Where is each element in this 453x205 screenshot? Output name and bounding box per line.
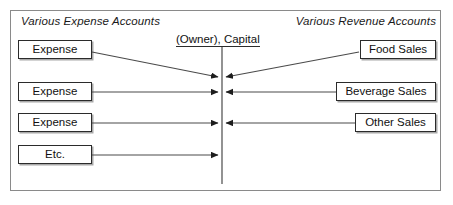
owner-capital-label: (Owner), Capital bbox=[176, 33, 260, 47]
expense-account-box: Expense bbox=[18, 113, 92, 132]
expense-account-box: Expense bbox=[18, 40, 92, 59]
revenue-account-box: Beverage Sales bbox=[336, 82, 436, 101]
revenue-account-box: Food Sales bbox=[360, 40, 436, 59]
closing-entries-diagram: Various Expense Accounts Various Revenue… bbox=[0, 0, 453, 205]
expense-account-box: Expense bbox=[18, 82, 92, 101]
revenue-accounts-header: Various Revenue Accounts bbox=[296, 15, 436, 27]
revenue-account-box: Other Sales bbox=[355, 113, 436, 132]
expense-accounts-header: Various Expense Accounts bbox=[21, 15, 160, 27]
expense-account-etc-box: Etc. bbox=[18, 145, 92, 164]
